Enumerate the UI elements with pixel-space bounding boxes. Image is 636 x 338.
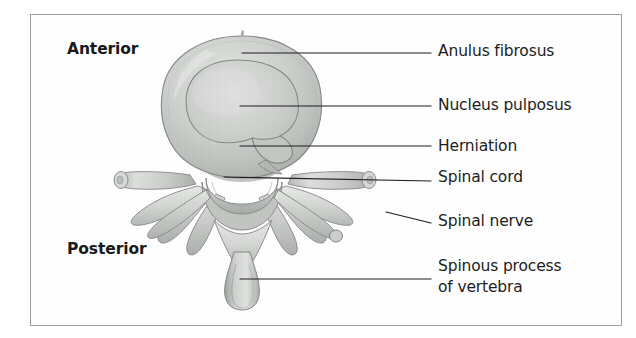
callout-label-herniation: Herniation <box>438 136 517 157</box>
callout-label-spinal-cord: Spinal cord <box>438 167 523 188</box>
orientation-label-anterior: Anterior <box>67 40 138 58</box>
callout-label-spinous-process-line2: of vertebra <box>438 277 561 298</box>
callout-label-spinous-process: Spinous processof vertebra <box>438 256 561 298</box>
figure-root: Anterior Posterior Anulus fibrosus Nucle… <box>0 0 636 338</box>
callout-label-spinal-nerve: Spinal nerve <box>438 211 533 232</box>
callout-label-spinous-process-line1: Spinous process <box>438 257 561 275</box>
callout-label-nucleus-pulposus: Nucleus pulposus <box>438 95 571 116</box>
orientation-label-posterior: Posterior <box>67 240 147 258</box>
callout-label-anulus-fibrosus: Anulus fibrosus <box>438 41 554 62</box>
